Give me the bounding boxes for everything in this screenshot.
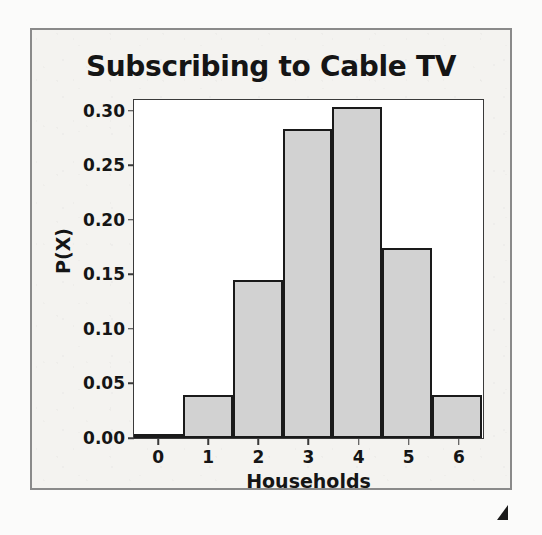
x-axis-label: Households [133, 470, 484, 492]
x-axis-ticks: 0 1 2 3 4 5 6 [133, 439, 484, 469]
y-tick-label-1: 0.05 [83, 373, 134, 393]
x-tick-label-0: 0 [133, 447, 183, 467]
plot-inner-surface: 0.00 0.05 0.10 0.15 0.20 0.25 0.30 [134, 100, 483, 438]
bar-slot-2 [234, 100, 284, 438]
x-tick-mark-5 [408, 439, 410, 445]
bar-slot-4 [333, 100, 383, 438]
bar-slot-5 [383, 100, 433, 438]
x-tick-mark-6 [458, 439, 460, 445]
bar-slot-1 [184, 100, 234, 438]
y-tick-label-0: 0.00 [83, 428, 134, 448]
bar-3 [283, 129, 333, 438]
x-tick-label-1: 1 [183, 447, 233, 467]
x-tick-slot-5: 5 [384, 439, 434, 469]
scan-artifact [497, 505, 508, 520]
x-tick-slot-1: 1 [183, 439, 233, 469]
bar-slot-0 [134, 100, 184, 438]
x-tick-mark-2 [258, 439, 260, 445]
x-tick-slot-2: 2 [233, 439, 283, 469]
x-tick-label-5: 5 [384, 447, 434, 467]
bar-0 [134, 434, 184, 438]
x-tick-label-2: 2 [233, 447, 283, 467]
x-tick-slot-0: 0 [133, 439, 183, 469]
y-tick-label-6: 0.30 [83, 101, 134, 121]
y-tick-label-3: 0.15 [83, 264, 134, 284]
x-tick-label-4: 4 [334, 447, 384, 467]
x-tick-mark-4 [358, 439, 360, 445]
bar-slot-3 [284, 100, 334, 438]
scanned-page: Subscribing to Cable TV P(X) 0.00 0.05 0… [0, 0, 542, 535]
y-tick-label-5: 0.25 [83, 155, 134, 175]
y-tick-label-2: 0.10 [83, 319, 134, 339]
y-axis-label: P(X) [52, 228, 74, 274]
x-tick-mark-0 [157, 439, 159, 445]
bar-series [134, 100, 483, 438]
x-tick-label-6: 6 [434, 447, 484, 467]
bar-2 [233, 280, 283, 438]
y-tick-label-4: 0.20 [83, 210, 134, 230]
x-tick-mark-3 [308, 439, 310, 445]
bar-6 [432, 395, 482, 438]
x-tick-mark-1 [207, 439, 209, 445]
bar-1 [183, 395, 233, 438]
chart-title: Subscribing to Cable TV [32, 50, 510, 83]
plot-area: 0.00 0.05 0.10 0.15 0.20 0.25 0.30 [133, 99, 484, 439]
bar-4 [332, 107, 382, 438]
bar-slot-6 [433, 100, 483, 438]
x-tick-slot-3: 3 [283, 439, 333, 469]
x-tick-slot-6: 6 [434, 439, 484, 469]
figure-frame: Subscribing to Cable TV P(X) 0.00 0.05 0… [30, 28, 512, 490]
x-tick-slot-4: 4 [334, 439, 384, 469]
bar-5 [382, 248, 432, 438]
x-tick-label-3: 3 [283, 447, 333, 467]
